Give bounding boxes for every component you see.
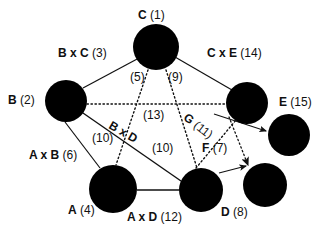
node-label-b: B (2): [8, 94, 35, 107]
edge-label-f: F (7): [202, 142, 227, 155]
node-label-b-name: B: [8, 93, 17, 107]
node-label-d-name: D: [221, 205, 230, 219]
edge-label-a-x-b-number: (6): [63, 148, 78, 162]
node-unlabeled-right[interactable]: [268, 114, 310, 156]
edge-label-a-x-d-name: A x D: [127, 210, 157, 224]
node-d[interactable]: [179, 168, 223, 212]
edge-label-c-x-e-name: C x E: [207, 46, 237, 60]
edge-label-10-left: (10): [92, 132, 113, 145]
node-label-d-number: (8): [233, 205, 248, 219]
edge-label-c-x-e: C x E (14): [207, 47, 262, 60]
edge-label-f-number: (7): [213, 141, 228, 155]
edge-label-a-x-d: A x D (12): [127, 211, 182, 224]
node-label-e-name: E: [279, 95, 287, 109]
node-label-d: D (8): [221, 206, 248, 219]
node-label-b-number: (2): [20, 93, 35, 107]
edge-label-13: (13): [143, 109, 164, 122]
node-label-e: E (15): [279, 96, 312, 109]
node-c[interactable]: [133, 24, 179, 70]
node-label-a-number: (4): [80, 203, 95, 217]
edge-label-f-name: F: [202, 141, 209, 155]
node-label-e-number: (15): [290, 95, 311, 109]
edge-label-10-right-number: (10): [152, 141, 173, 155]
edge-c-e: [175, 57, 232, 90]
node-b[interactable]: [45, 80, 87, 122]
edge-label-5: (5): [130, 71, 145, 84]
node-label-c-name: C: [138, 8, 147, 22]
edge-label-a-x-d-number: (12): [161, 210, 182, 224]
edge-label-b-x-c-name: B x C: [58, 46, 89, 60]
node-unlabeled-bottom-right[interactable]: [243, 163, 287, 207]
edge-label-13-number: (13): [143, 108, 164, 122]
node-label-a: A (4): [68, 204, 95, 217]
node-label-a-name: A: [68, 203, 77, 217]
edge-label-c-x-e-number: (14): [240, 46, 261, 60]
edge-label-9: (9): [168, 71, 183, 84]
node-label-c-number: (1): [150, 8, 165, 22]
edge-label-a-x-b-name: A x B: [29, 148, 59, 162]
node-label-c: C (1): [138, 9, 165, 22]
edge-label-b-x-c: B x C (3): [58, 47, 107, 60]
edge-label-a-x-b: A x B (6): [29, 149, 77, 162]
edge-label-10-right: (10): [152, 142, 173, 155]
node-a[interactable]: [89, 165, 137, 213]
edge-label-9-number: (9): [168, 70, 183, 84]
node-e[interactable]: [226, 82, 268, 124]
task-interaction-graph: C (1) B (2) E (15) A (4) D (8) B x C (3)…: [0, 0, 331, 235]
edge-label-b-x-c-number: (3): [92, 46, 107, 60]
edge-label-10-left-number: (10): [92, 131, 113, 145]
edge-d-node2-arrow: [219, 166, 246, 173]
edge-label-5-number: (5): [130, 70, 145, 84]
graph-canvas: [0, 0, 331, 235]
